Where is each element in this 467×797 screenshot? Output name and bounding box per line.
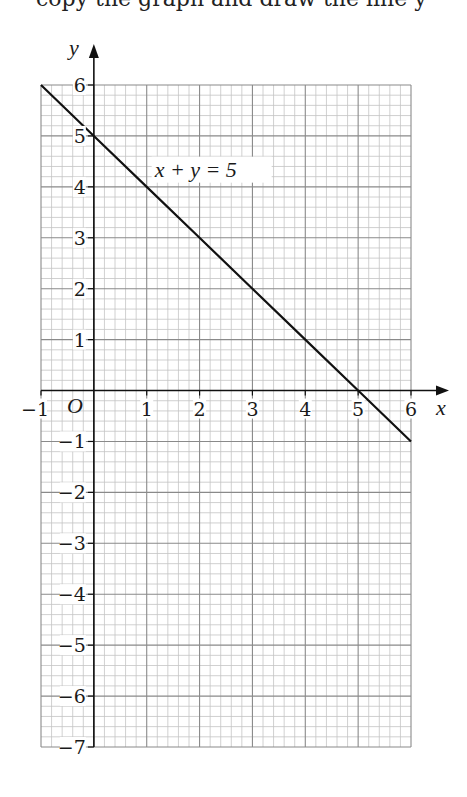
x-tick-label: 5 [352, 398, 364, 420]
y-tick-label: −1 [58, 430, 86, 452]
y-tick-label: 3 [74, 227, 86, 249]
x-tick-label: 3 [246, 398, 258, 420]
axes [41, 44, 449, 747]
x-tick-label: 1 [141, 398, 153, 420]
equation-label: x + y = 5 [154, 157, 237, 182]
y-tick-label: −4 [58, 583, 86, 605]
y-tick-label: 6 [74, 74, 86, 96]
y-tick-label: −3 [58, 532, 86, 554]
y-tick-label: −2 [58, 481, 86, 503]
x-tick-label: −1 [21, 398, 49, 420]
tick-labels: xyO−1123456654321−1−2−3−4−5−6−7x + y = 5 [21, 35, 446, 758]
x-axis-label: x [435, 395, 446, 420]
coordinate-grid-chart: xyO−1123456654321−1−2−3−4−5−6−7x + y = 5 [0, 0, 467, 797]
x-tick-label: 6 [405, 398, 417, 420]
y-tick-label: −5 [58, 634, 86, 656]
y-axis-label: y [67, 35, 79, 60]
y-tick-label: −7 [58, 736, 86, 758]
y-tick-label: 1 [74, 329, 86, 351]
x-tick-label: 4 [299, 398, 311, 420]
origin-label: O [67, 393, 83, 418]
y-tick-label: 4 [74, 176, 86, 198]
y-tick-label: −6 [58, 685, 86, 707]
y-axis-arrow-icon [89, 44, 99, 58]
line-x-plus-y-equals-5 [41, 85, 411, 441]
y-tick-label: 5 [74, 125, 86, 147]
series-line [41, 85, 411, 441]
y-tick-label: 2 [74, 278, 86, 300]
x-tick-label: 2 [194, 398, 206, 420]
